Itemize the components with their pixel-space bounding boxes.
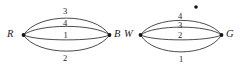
left-edge-label-inner-bottom: 1 [64, 31, 68, 40]
right-edge-label-inner-bottom: 2 [178, 31, 182, 40]
vertex-label-W: W [124, 29, 133, 40]
left-edge-label-inner-top: 4 [63, 19, 67, 28]
right-vertex-node-W [139, 33, 143, 37]
left-vertex-node-B [108, 33, 112, 37]
right-vertex-node-G [220, 33, 224, 37]
graph-canvas [0, 0, 246, 69]
right-edge-label-inner-top: 3 [178, 21, 182, 30]
left-edge-label-outer-top: 3 [63, 7, 67, 16]
left-vertex-node-R [22, 33, 26, 37]
vertex-label-G: G [226, 29, 234, 40]
stray-dot-mark [194, 5, 198, 9]
right-edge-label-outer-bottom: 1 [179, 55, 183, 64]
vertex-label-R: R [7, 29, 14, 40]
left-edge-label-outer-bottom: 2 [63, 54, 67, 63]
multigraph-figure: R B 3 4 1 2 W G 4 3 2 1 [0, 0, 246, 69]
vertex-label-B: B [114, 29, 121, 40]
